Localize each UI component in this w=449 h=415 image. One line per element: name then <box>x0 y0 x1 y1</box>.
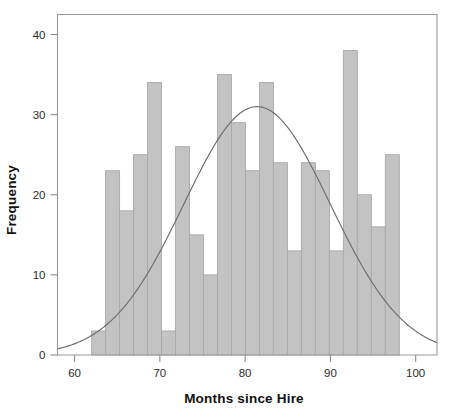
histogram-bar <box>204 275 218 355</box>
histogram-bar <box>148 83 162 355</box>
histogram-bar <box>162 331 176 355</box>
y-tick-label: 0 <box>39 349 45 361</box>
histogram-bar <box>301 163 315 355</box>
histogram-bar <box>120 211 134 355</box>
x-tick-label: 60 <box>68 367 81 379</box>
x-tick-label: 90 <box>324 367 337 379</box>
chart-canvas: 010203040 60708090100 Months since Hire … <box>0 0 449 415</box>
histogram-bar <box>259 83 273 355</box>
y-tick-label: 10 <box>33 269 46 281</box>
histogram-bar <box>134 155 148 355</box>
histogram-bar <box>190 235 204 355</box>
x-tick-label: 80 <box>239 367 252 379</box>
y-tick-label: 20 <box>33 189 46 201</box>
histogram-bar <box>273 163 287 355</box>
histogram-bar <box>385 155 399 355</box>
histogram-bar <box>176 147 190 355</box>
y-tick-label: 40 <box>33 29 46 41</box>
histogram-chart: 010203040 60708090100 Months since Hire … <box>0 0 449 415</box>
histogram-bar <box>329 251 343 355</box>
x-tick-label: 70 <box>153 367 166 379</box>
y-axis-title: Frequency <box>4 165 19 235</box>
histogram-bar <box>106 171 120 355</box>
histogram-bar <box>217 75 231 355</box>
x-axis-title: Months since Hire <box>184 391 304 406</box>
x-tick-label: 100 <box>406 367 425 379</box>
histogram-bar <box>231 123 245 355</box>
histogram-bar <box>357 195 371 355</box>
y-tick-label: 30 <box>33 109 46 121</box>
histogram-bar <box>287 251 301 355</box>
histogram-bar <box>245 171 259 355</box>
histogram-bar <box>343 51 357 355</box>
